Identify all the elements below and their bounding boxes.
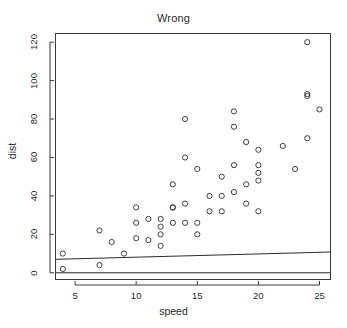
data-point — [121, 251, 126, 256]
axis-group — [50, 42, 320, 285]
data-point — [134, 236, 139, 241]
data-point — [292, 166, 297, 171]
y-tick-label: 80 — [27, 107, 41, 131]
data-point — [244, 201, 249, 206]
data-point — [158, 216, 163, 221]
data-points-group — [60, 40, 322, 272]
data-point — [231, 124, 236, 129]
y-tick-label: 20 — [27, 222, 41, 246]
data-point — [134, 205, 139, 210]
x-tick-label: 15 — [192, 290, 203, 301]
data-point — [317, 107, 322, 112]
fit-lines-group — [56, 252, 331, 273]
data-point — [60, 266, 65, 271]
data-point — [60, 251, 65, 256]
data-point — [207, 209, 212, 214]
data-point — [231, 163, 236, 168]
data-point — [305, 136, 310, 141]
x-tick-label: 5 — [72, 290, 77, 301]
data-point — [195, 232, 200, 237]
data-point — [256, 147, 261, 152]
plot-panel-border — [56, 34, 331, 280]
data-point — [219, 193, 224, 198]
x-tick-label: 25 — [314, 290, 325, 301]
y-tick-label: 60 — [27, 145, 41, 169]
data-point — [244, 182, 249, 187]
data-point — [256, 170, 261, 175]
data-point — [158, 224, 163, 229]
data-point — [134, 220, 139, 225]
data-point — [158, 243, 163, 248]
scatter-plot-figure: Wrong speed dist 020406080100120 5101520… — [0, 0, 347, 328]
data-point — [195, 220, 200, 225]
data-point — [195, 166, 200, 171]
data-point — [256, 209, 261, 214]
data-point — [207, 193, 212, 198]
data-point — [182, 155, 187, 160]
y-tick-label: 0 — [27, 261, 41, 285]
data-point — [109, 239, 114, 244]
data-point — [170, 220, 175, 225]
data-point — [256, 163, 261, 168]
data-point — [146, 216, 151, 221]
data-point — [219, 174, 224, 179]
data-point — [231, 109, 236, 114]
data-point — [170, 205, 175, 210]
y-tick-label: 120 — [27, 30, 41, 54]
fit-line-upper — [56, 252, 331, 259]
data-point — [97, 228, 102, 233]
data-point — [244, 139, 249, 144]
data-point — [158, 232, 163, 237]
data-point — [231, 189, 236, 194]
y-tick-label: 100 — [27, 69, 41, 93]
x-tick-label: 10 — [131, 290, 142, 301]
y-tick-label: 40 — [27, 184, 41, 208]
data-point — [305, 40, 310, 45]
data-point — [280, 143, 285, 148]
data-point — [182, 116, 187, 121]
data-point — [170, 182, 175, 187]
data-point — [182, 220, 187, 225]
data-point — [146, 238, 151, 243]
data-point — [182, 201, 187, 206]
data-point — [256, 178, 261, 183]
data-point — [97, 262, 102, 267]
data-point — [219, 209, 224, 214]
x-tick-label: 20 — [253, 290, 264, 301]
plot-canvas — [0, 0, 347, 328]
